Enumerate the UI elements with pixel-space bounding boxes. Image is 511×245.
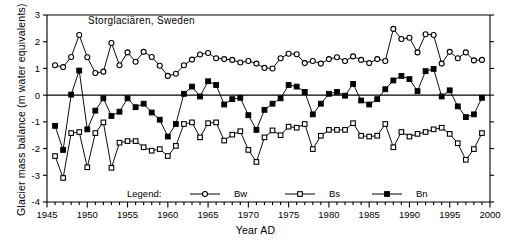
svg-text:0: 0 xyxy=(35,90,40,101)
svg-text:-1: -1 xyxy=(32,116,40,127)
legend-title: Legend: xyxy=(127,188,161,199)
svg-text:1: 1 xyxy=(35,63,40,74)
svg-text:1985: 1985 xyxy=(359,209,380,220)
svg-text:1995: 1995 xyxy=(439,209,460,220)
legend-label-bw: Bw xyxy=(234,188,247,199)
x-axis-title: Year AD xyxy=(0,224,511,236)
svg-text:2: 2 xyxy=(35,36,40,47)
svg-text:1945: 1945 xyxy=(36,209,57,220)
legend-label-bs: Bs xyxy=(329,188,340,199)
svg-text:1960: 1960 xyxy=(157,209,178,220)
svg-text:1975: 1975 xyxy=(278,209,299,220)
y-axis-title: Glacier mass balance (m water equivalent… xyxy=(15,6,27,216)
svg-text:1970: 1970 xyxy=(238,209,259,220)
chart-figure: -4-3-2-10123 194519501955196019651970197… xyxy=(0,0,511,245)
svg-text:-4: -4 xyxy=(32,196,40,207)
svg-text:-3: -3 xyxy=(32,170,40,181)
svg-text:1950: 1950 xyxy=(77,209,98,220)
legend-label-bn: Bn xyxy=(416,188,428,199)
svg-text:1965: 1965 xyxy=(198,209,219,220)
chart-title: Storglaciären, Sweden xyxy=(88,15,195,26)
svg-text:1990: 1990 xyxy=(399,209,420,220)
mass-balance-line-chart: -4-3-2-10123 194519501955196019651970197… xyxy=(0,0,511,245)
svg-text:1955: 1955 xyxy=(117,209,138,220)
svg-text:3: 3 xyxy=(35,9,40,20)
svg-text:2000: 2000 xyxy=(479,209,500,220)
svg-text:-2: -2 xyxy=(32,143,40,154)
svg-text:1980: 1980 xyxy=(318,209,339,220)
